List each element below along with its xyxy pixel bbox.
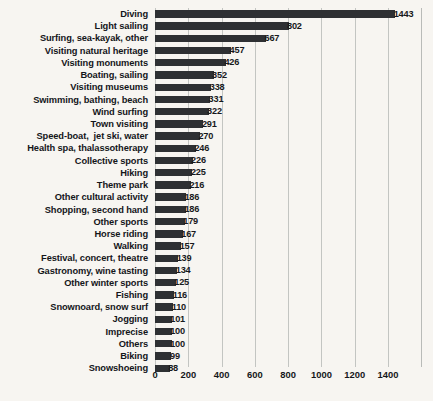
bar-value-label: 99	[170, 350, 180, 362]
bar-row: 186	[155, 204, 421, 216]
bar-row: 246	[155, 142, 421, 154]
category-label: Horse riding	[0, 228, 152, 240]
category-label: Town visiting	[0, 118, 152, 130]
bar-value-label: 1443	[394, 8, 414, 20]
bar-row: 352	[155, 69, 421, 81]
bar-value-label: 426	[224, 56, 239, 68]
bar-row: 270	[155, 130, 421, 142]
category-label: Collective sports	[0, 155, 152, 167]
bar-row: 1443	[155, 8, 421, 20]
bar-row: 99	[155, 350, 421, 362]
bar	[155, 47, 231, 54]
bar-row: 110	[155, 301, 421, 313]
category-label: Biking	[0, 350, 152, 362]
x-tick-label: 0	[152, 369, 157, 380]
category-label: Theme park	[0, 179, 152, 191]
bar-row: 100	[155, 326, 421, 338]
category-label: Health spa, thalassotherapy	[0, 142, 152, 154]
bar	[155, 242, 181, 249]
bar	[155, 303, 173, 310]
bar	[155, 291, 174, 298]
category-label: Visiting museums	[0, 81, 152, 93]
bar	[155, 255, 178, 262]
category-label: Light sailing	[0, 20, 152, 32]
bar	[155, 71, 214, 78]
x-tick-label: 400	[214, 369, 230, 380]
bar-value-label: 457	[230, 44, 245, 56]
category-label: Other cultural activity	[0, 191, 152, 203]
category-label-column: DivingLight sailingSurfing, sea-kayak, o…	[0, 8, 152, 375]
bar-value-label: 270	[198, 130, 213, 142]
bar	[155, 84, 211, 91]
category-label: Fishing	[0, 289, 152, 301]
bar-row: 134	[155, 265, 421, 277]
bar-value-label: 101	[170, 313, 185, 325]
bar	[155, 132, 200, 139]
bar-row: 179	[155, 216, 421, 228]
bar	[155, 230, 183, 237]
bar-value-label: 139	[177, 252, 192, 264]
bar	[155, 169, 192, 176]
bar-row: 802	[155, 20, 421, 32]
bar-value-label: 100	[170, 338, 185, 350]
category-label: Wind surfing	[0, 106, 152, 118]
category-label: Diving	[0, 8, 152, 20]
x-tick-label: 200	[180, 369, 196, 380]
bar-value-label: 322	[207, 105, 222, 117]
bar	[155, 193, 186, 200]
bar-value-label: 338	[210, 81, 225, 93]
bar-value-label: 802	[287, 20, 302, 32]
category-label: Imprecise	[0, 326, 152, 338]
bar-row: 225	[155, 167, 421, 179]
bar	[155, 35, 266, 42]
bar-row: 167	[155, 228, 421, 240]
bar-value-label: 186	[184, 191, 199, 203]
category-label: Snowshoeing	[0, 362, 152, 374]
category-label: Walking	[0, 240, 152, 252]
category-label: Speed-boat, jet ski, water	[0, 130, 152, 142]
category-label: Surfing, sea-kayak, other	[0, 32, 152, 44]
category-label: Other winter sports	[0, 277, 152, 289]
bar-value-label: 110	[172, 301, 186, 313]
category-label: Jogging	[0, 313, 152, 325]
category-label: Festival, concert, theatre	[0, 252, 152, 264]
bar	[155, 206, 186, 213]
x-tick-label: 1000	[311, 369, 332, 380]
bar-value-label: 216	[189, 179, 204, 191]
bar-row: 125	[155, 277, 421, 289]
bar	[155, 328, 172, 335]
bar-value-label: 352	[212, 69, 227, 81]
bar-value-label: 125	[174, 276, 189, 288]
bar-value-label: 331	[209, 93, 224, 105]
bar	[155, 108, 209, 115]
bar	[155, 59, 226, 66]
bar-value-label: 116	[173, 289, 187, 301]
x-tick-label: 1400	[378, 369, 399, 380]
category-label: Snownoard, snow surf	[0, 301, 152, 313]
x-axis-tick-labels: 0200400600800100012001400	[155, 369, 422, 389]
bar	[155, 157, 193, 164]
bar-row: 139	[155, 252, 421, 264]
bar-value-label: 100	[170, 325, 185, 337]
bar	[155, 267, 177, 274]
bar-row: 101	[155, 313, 421, 325]
category-label: Other sports	[0, 216, 152, 228]
x-tick-label: 800	[280, 369, 296, 380]
bar-row: 426	[155, 57, 421, 69]
bar-value-label: 291	[202, 118, 217, 130]
bar	[155, 218, 185, 225]
bar-value-label: 186	[184, 203, 199, 215]
category-label: Visiting monuments	[0, 57, 152, 69]
bar	[155, 279, 176, 286]
bar-row: 226	[155, 155, 421, 167]
x-tick-label: 600	[247, 369, 263, 380]
category-label: Others	[0, 338, 152, 350]
bar	[155, 340, 172, 347]
bar	[155, 316, 172, 323]
category-label: Boating, sailing	[0, 69, 152, 81]
bar-row: 457	[155, 45, 421, 57]
bar-value-label: 667	[265, 32, 280, 44]
category-label: Hiking	[0, 167, 152, 179]
bar	[155, 181, 191, 188]
bar-row: 291	[155, 118, 421, 130]
